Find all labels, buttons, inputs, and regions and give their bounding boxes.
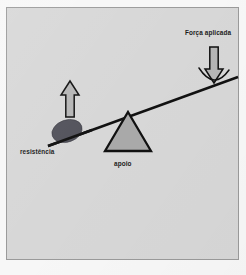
label-resistance: resistência (20, 149, 55, 155)
label-applied-force: Força aplicada (185, 30, 231, 36)
resistance-ellipse (49, 116, 85, 147)
figure-canvas: Força aplicada resistência apoio (0, 0, 246, 275)
resistance-up-arrow (61, 81, 79, 117)
fulcrum-triangle (105, 112, 151, 151)
label-fulcrum: apoio (114, 161, 132, 167)
lever-diagram (0, 0, 246, 275)
